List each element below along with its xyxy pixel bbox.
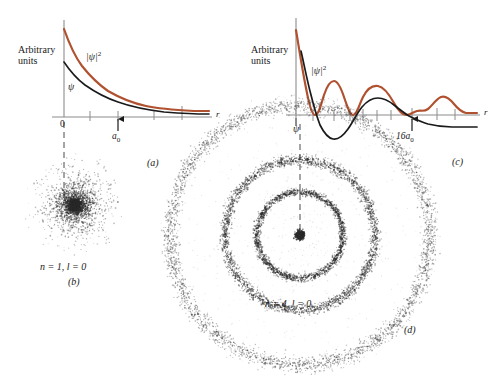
panel-a-psi-squared-label: |ψ|2 [86,51,101,63]
panel-c-16a0-base: 16a [396,131,410,141]
panel-b-electron-cloud [25,153,122,256]
panel-c-y-axis-label-line1: Arbitrary [251,45,288,56]
panel-d-letter: (d) [404,325,416,336]
panel-a-x-axis-label: r [216,110,220,119]
panel-a-y-axis-label: Arbitrary units [18,45,55,66]
panel-c-letter: (c) [452,157,463,168]
panel-d-caption: n = 4, l = 0 [265,299,311,310]
panel-c-x-axis-label: r [484,108,488,117]
panel-a-psi-squared-curve [64,29,209,111]
panel-a-y-axis-label-line2: units [18,56,55,67]
hydrogen-wavefunction-figure: Arbitrary units |ψ|2 ψ r 0 a0 (a) n = 1,… [0,0,499,381]
panel-b-caption: n = 1, l = 0 [40,262,86,273]
panel-a-a0-sub: 0 [117,136,121,144]
panel-c-y-axis-label-line2: units [251,56,288,67]
panel-c-psi-label: ψ [293,124,299,135]
panel-a-y-axis-label-line1: Arbitrary [18,45,55,56]
panel-c-16a0-sub: 0 [410,136,414,144]
panel-b-letter: (b) [68,277,80,288]
panel-c-psi-squared-exp: 2 [323,64,327,72]
panel-c-psi-squared-label: |ψ|2 [311,65,326,77]
panel-c-psi-squared-base: |ψ| [311,65,323,76]
panel-c-y-axis-label: Arbitrary units [251,45,288,66]
panel-a-origin-label: 0 [60,120,65,130]
panel-a-a0-label: a0 [112,132,120,144]
panel-a-psi-label: ψ [68,82,74,93]
panel-c-16a0-label: 16a0 [396,132,414,144]
figure-canvas [0,0,499,381]
panel-a-psi-squared-exp: 2 [98,50,102,58]
panel-a-letter: (a) [147,158,159,169]
panel-a-psi-squared-base: |ψ| [86,51,98,62]
